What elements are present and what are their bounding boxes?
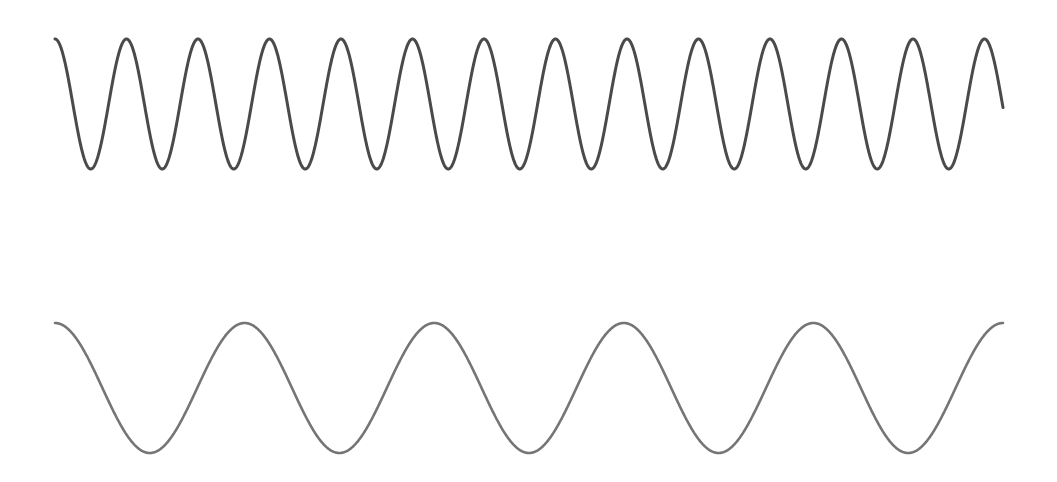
- wave-plot-svg: [0, 0, 1057, 482]
- figure-canvas: [0, 0, 1057, 482]
- plot-background: [0, 0, 1057, 482]
